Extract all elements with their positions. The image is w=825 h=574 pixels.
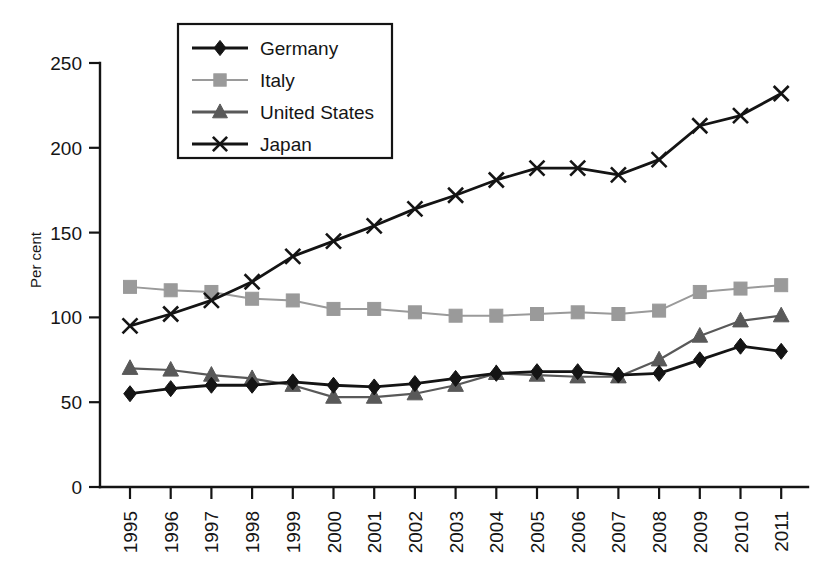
marker-diamond [327, 377, 339, 393]
marker-square [775, 279, 788, 292]
marker-square [571, 306, 584, 319]
marker-square [490, 309, 503, 322]
x-tick-label: 2004 [486, 511, 507, 554]
y-tick-label: 200 [50, 138, 82, 159]
marker-square [612, 308, 625, 321]
marker-triangle [651, 351, 667, 366]
x-tick-label: 1997 [201, 511, 222, 553]
marker-diamond [653, 365, 665, 381]
marker-cross [407, 201, 422, 216]
y-axis: 050100150200250 [50, 53, 100, 498]
marker-square [693, 285, 706, 298]
marker-cross [123, 318, 138, 333]
y-tick-label: 150 [50, 223, 82, 244]
marker-square [124, 280, 137, 293]
x-tick-label: 2009 [690, 511, 711, 553]
x-tick-label: 2006 [568, 511, 589, 553]
marker-square [368, 302, 381, 315]
marker-square [734, 282, 747, 295]
marker-triangle [122, 360, 138, 375]
marker-square [164, 284, 177, 297]
x-tick-label: 2008 [649, 511, 670, 553]
x-tick-label: 1996 [161, 511, 182, 553]
x-tick-label: 2001 [364, 511, 385, 553]
marker-cross [652, 152, 667, 167]
chart-container: 050100150200250 199519961997199819992000… [0, 0, 825, 574]
y-tick-label: 250 [50, 53, 82, 74]
marker-cross [489, 173, 504, 188]
marker-square [214, 74, 226, 86]
y-tick-label: 50 [61, 392, 82, 413]
marker-cross [448, 188, 463, 203]
chart-legend: GermanyItalyUnited StatesJapan [178, 24, 392, 158]
marker-diamond [694, 352, 706, 368]
marker-square [449, 309, 462, 322]
y-tick-label: 0 [71, 477, 82, 498]
x-tick-label: 2002 [405, 511, 426, 553]
x-axis: 1995199619971998199920002001200220032004… [100, 487, 808, 553]
series-germany [124, 338, 788, 401]
marker-square [286, 294, 299, 307]
legend-label: Japan [260, 134, 312, 155]
series-italy [124, 279, 788, 323]
marker-square [531, 308, 544, 321]
marker-diamond [124, 386, 136, 402]
marker-diamond [409, 376, 421, 392]
marker-square [653, 304, 666, 317]
x-tick-label: 2011 [771, 511, 792, 552]
y-tick-label: 100 [50, 307, 82, 328]
legend-label: United States [260, 102, 374, 123]
x-tick-label: 1995 [120, 511, 141, 553]
x-tick-label: 2000 [324, 511, 345, 553]
marker-diamond [164, 381, 176, 397]
x-tick-label: 1998 [242, 511, 263, 553]
marker-cross [245, 274, 260, 289]
line-chart: 050100150200250 199519961997199819992000… [0, 0, 825, 574]
x-tick-label: 2005 [527, 511, 548, 553]
legend-label: Germany [260, 38, 339, 59]
y-axis-title-text: Per cent [27, 231, 44, 288]
marker-diamond [734, 338, 746, 354]
marker-square [246, 292, 259, 305]
x-tick-label: 2007 [608, 511, 629, 553]
marker-cross [163, 307, 178, 322]
marker-diamond [775, 343, 787, 359]
marker-cross [326, 234, 341, 249]
x-tick-label: 1999 [283, 511, 304, 553]
marker-cross [774, 86, 789, 101]
x-tick-label: 2003 [446, 511, 467, 553]
marker-cross [285, 249, 300, 264]
marker-cross [367, 218, 382, 233]
marker-square [327, 302, 340, 315]
y-axis-title: Per cent [27, 231, 44, 288]
marker-square [408, 306, 421, 319]
x-tick-label: 2010 [731, 511, 752, 553]
marker-triangle [773, 307, 789, 322]
marker-diamond [368, 379, 380, 395]
legend-label: Italy [260, 70, 295, 91]
